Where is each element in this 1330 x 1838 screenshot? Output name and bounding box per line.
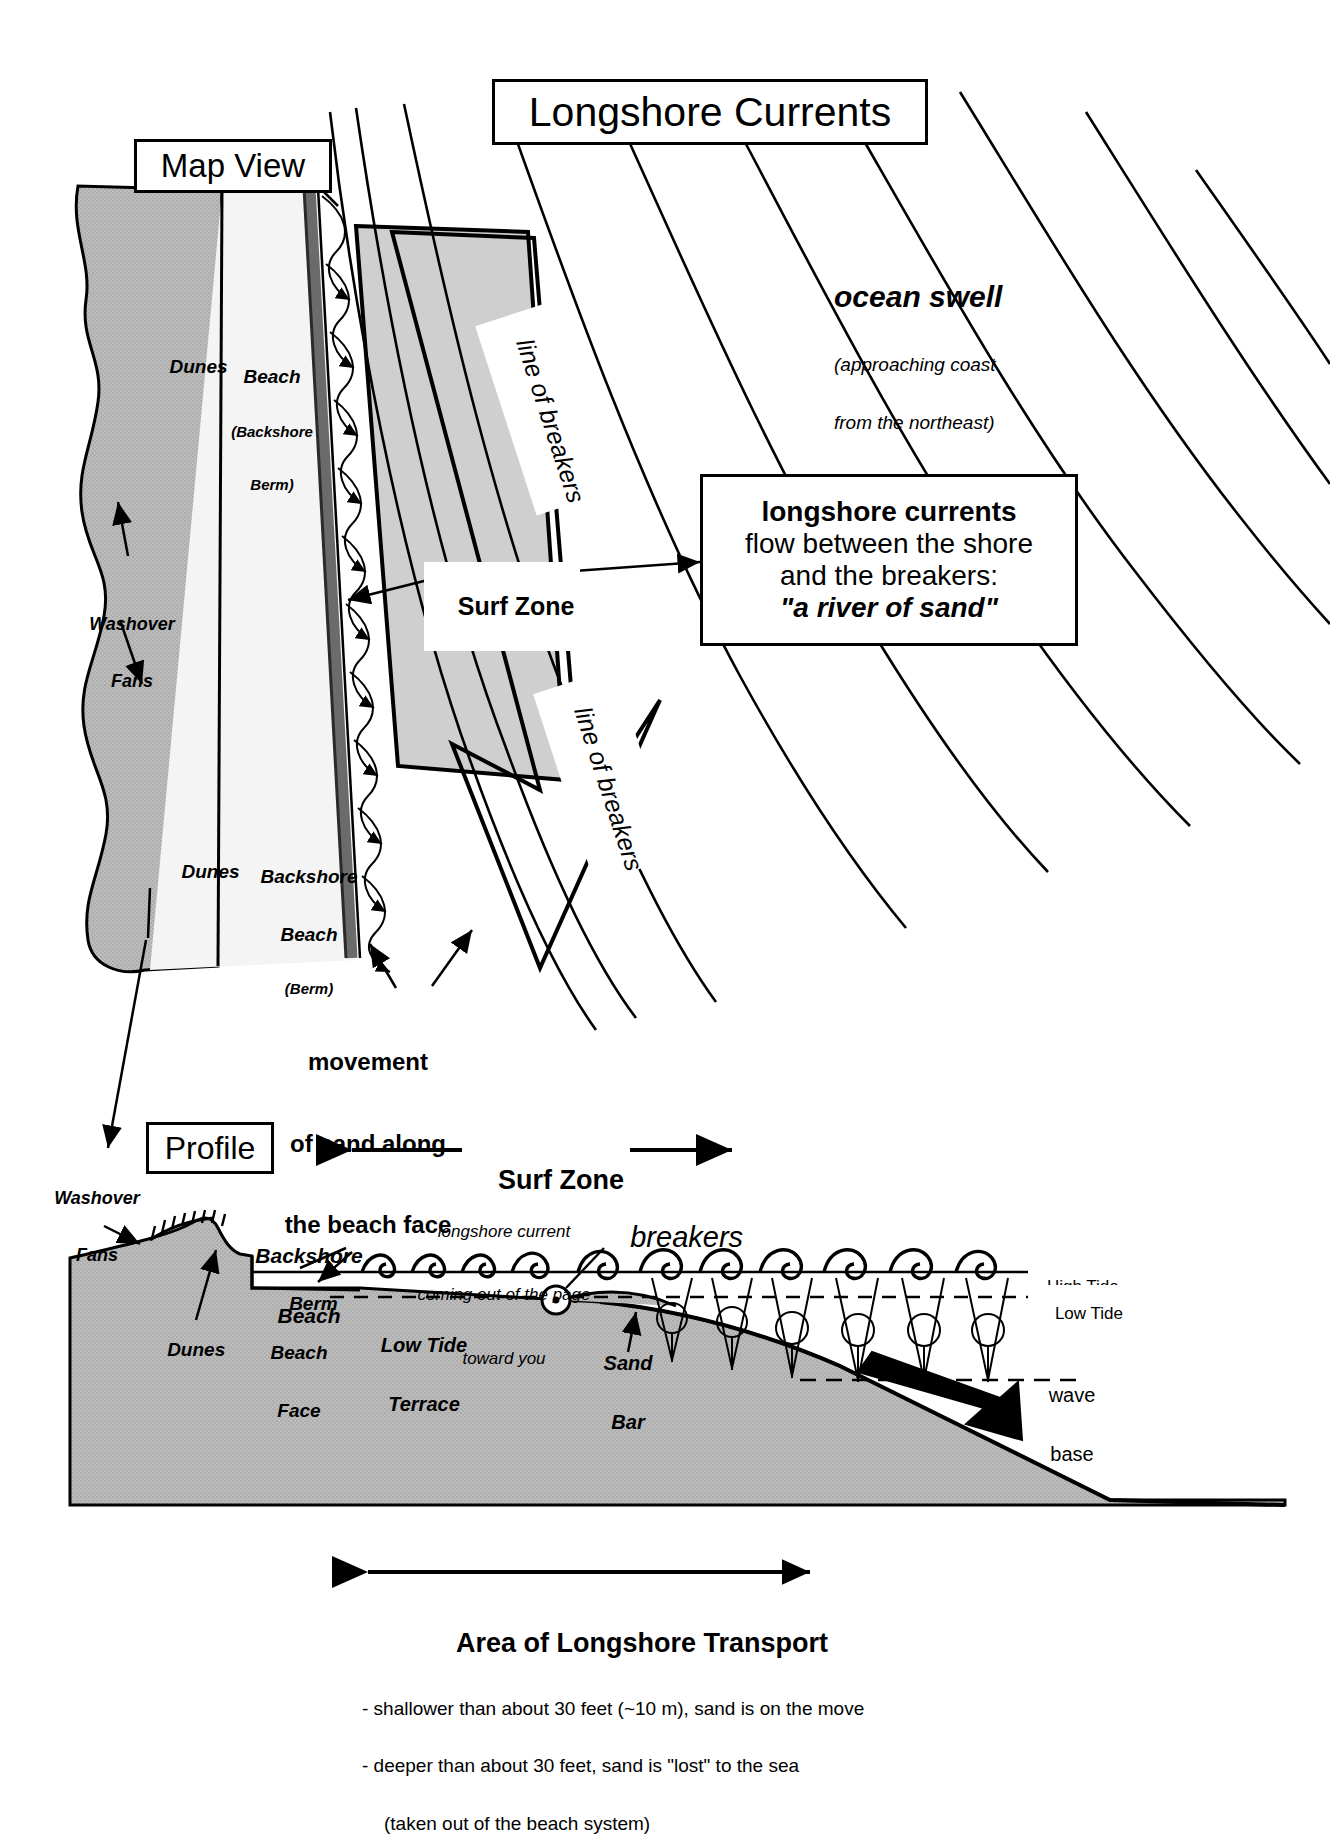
profile-wave-base-line1: wave [1036, 1384, 1108, 1407]
map-label-surf-zone: Surf Zone [424, 562, 580, 651]
callout-line2: flow between the shore [745, 528, 1033, 560]
callout-line1: longshore currents [761, 496, 1016, 528]
profile-label-breakers-text: breakers [630, 1221, 743, 1253]
profile-title-box: Profile [146, 1122, 274, 1174]
profile-wave-base-line2: base [1036, 1443, 1108, 1466]
ocean-swell-title: ocean swell [834, 280, 1094, 314]
profile-label-beach-face: Beach Face [256, 1306, 342, 1457]
current-out-of-page-note: longshore current coming out of the page… [396, 1178, 612, 1412]
map-label-beach-line1: Beach [216, 366, 328, 387]
current-note-line3: toward you [396, 1348, 612, 1369]
transport-caption: Area of Longshore Transport - shallower … [362, 1592, 922, 1838]
profile-label-breakers: breakers [598, 1188, 743, 1286]
ocean-swell-sub-line2: from the northeast) [834, 412, 1094, 433]
ocean-swell-sub-line1: (approaching coast [834, 354, 1094, 375]
current-note-line1: longshore current [396, 1221, 612, 1242]
callout-line3: and the breakers: [780, 560, 998, 592]
profile-label-low-tide: Low Tide [1036, 1285, 1123, 1343]
map-label-backshore-line2: Beach [246, 924, 372, 945]
map-label-backshore-line1: Backshore [246, 866, 372, 887]
profile-beach-face-line1: Beach [256, 1342, 342, 1363]
profile-label-washover-fans: Washover Fans [40, 1152, 154, 1301]
transport-bullet3: (taken out of the beach system) [362, 1813, 922, 1834]
ocean-swell-label: ocean swell (approaching coast from the … [834, 244, 1094, 469]
map-view-title: Map View [161, 147, 305, 185]
map-label-washover-line1: Washover [74, 614, 190, 634]
map-label-washover-fans: Washover Fans [74, 578, 190, 727]
transport-title: Area of Longshore Transport [362, 1628, 922, 1659]
page-title: Longshore Currents [529, 89, 891, 136]
profile-label-wave-base: wave base [1036, 1348, 1108, 1502]
map-label-beach-line2: (Backshore [216, 424, 328, 441]
movement-line1: movement [252, 1048, 484, 1075]
map-view-title-box: Map View [134, 139, 332, 193]
map-label-surf-zone-text: Surf Zone [458, 592, 575, 620]
profile-washover-line2: Fans [40, 1245, 154, 1265]
profile-washover-line1: Washover [40, 1188, 154, 1208]
profile-backshore-line1: Backshore [246, 1244, 372, 1268]
map-label-dunes-bottom: Dunes [152, 840, 248, 904]
map-label-beach-line3: Berm) [216, 477, 328, 494]
profile-label-low-tide-text: Low Tide [1055, 1304, 1123, 1323]
profile-title: Profile [165, 1130, 256, 1167]
map-label-washover-line2: Fans [74, 671, 190, 691]
callout-line4: "a river of sand" [780, 592, 998, 624]
profile-sand-bar-line2: Bar [588, 1411, 668, 1434]
profile-label-dunes: Dunes [146, 1318, 225, 1382]
profile-label-dunes-text: Dunes [167, 1339, 225, 1360]
map-label-beach: Beach (Backshore Berm) [216, 330, 328, 530]
transport-bullet2: - deeper than about 30 feet, sand is "lo… [362, 1755, 922, 1776]
map-label-dunes-bottom-text: Dunes [182, 861, 240, 882]
profile-beach-face-line2: Face [256, 1400, 342, 1421]
transport-bullet1: - shallower than about 30 feet (~10 m), … [362, 1698, 922, 1719]
longshore-callout-box: longshore currents flow between the shor… [700, 474, 1078, 646]
movement-line2: of sand along [252, 1130, 484, 1157]
current-note-line2: coming out of the page [396, 1284, 612, 1305]
page-title-box: Longshore Currents [492, 79, 928, 145]
